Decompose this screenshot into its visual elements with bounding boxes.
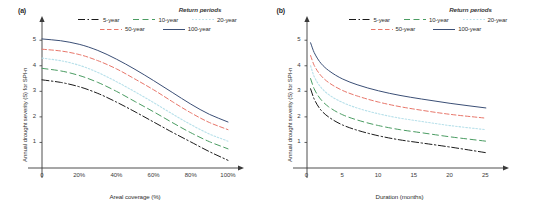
x-tick-label: 80% — [177, 172, 205, 178]
x-axis-title: Duration (months) — [307, 193, 493, 200]
x-tick-label: 15 — [400, 172, 428, 178]
y-axis-arrow — [304, 16, 309, 22]
x-tick-label: 100% — [214, 172, 242, 178]
panel-a-plot: 020%40%60%80%100%12345Areal coverage (%)… — [0, 0, 271, 206]
x-axis-arrow — [238, 165, 244, 170]
x-tick-label: 0 — [293, 172, 321, 178]
x-tick-label: 60% — [140, 172, 168, 178]
y-axis-title: Annual drought severity (S) for SPI-n — [22, 68, 28, 162]
figure-container: (a) Return periods 5-year10-year20-year5… — [0, 0, 541, 206]
y-axis-arrow — [39, 16, 44, 22]
x-tick-label: 20% — [65, 172, 93, 178]
x-tick-label: 10 — [364, 172, 392, 178]
series-line-100-year — [310, 43, 485, 108]
x-axis-arrow — [503, 165, 509, 170]
series-line-5-year — [310, 89, 485, 153]
x-tick-label: 25 — [471, 172, 499, 178]
x-tick-label: 40% — [102, 172, 130, 178]
panel-b-plot: 051015202512345Duration (months)Annual d… — [271, 0, 541, 206]
series-line-10-year — [42, 68, 228, 149]
series-line-20-year — [310, 66, 485, 130]
series-line-50-year — [310, 56, 485, 119]
series-line-50-year — [42, 49, 228, 130]
x-tick-label: 20 — [436, 172, 464, 178]
x-axis-title: Areal coverage (%) — [42, 193, 228, 200]
y-tick-label: 5 — [285, 36, 301, 42]
panel-b: (b) Return periods 5-year10-year20-year5… — [271, 0, 541, 206]
panel-a: (a) Return periods 5-year10-year20-year5… — [0, 0, 271, 206]
x-tick-label: 0 — [28, 172, 56, 178]
y-tick-label: 5 — [20, 36, 36, 42]
series-line-20-year — [42, 58, 228, 141]
x-tick-label: 5 — [328, 172, 356, 178]
y-axis-title: Annual drought severity (S) for SPI-n — [287, 68, 293, 162]
series-line-100-year — [42, 39, 228, 122]
